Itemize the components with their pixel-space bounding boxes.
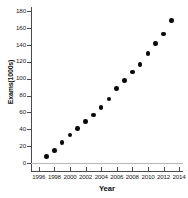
y-tick-label: 180 <box>0 8 26 15</box>
data-point <box>52 148 57 153</box>
plot-area <box>0 0 188 198</box>
y-tick-label-text: 180 <box>2 8 26 14</box>
y-tick <box>27 62 31 63</box>
data-point <box>146 51 151 56</box>
y-tick-label: 160 <box>0 25 26 32</box>
y-tick-label-text: 140 <box>2 42 26 48</box>
y-axis-line <box>31 7 32 171</box>
data-point <box>75 126 80 131</box>
data-point <box>169 18 174 23</box>
y-tick-label-text: 160 <box>2 25 26 31</box>
data-point <box>83 119 88 124</box>
data-point <box>44 154 49 159</box>
y-tick <box>27 28 31 29</box>
y-tick <box>27 112 31 113</box>
data-point <box>161 32 166 37</box>
x-tick-label: 2014 <box>168 173 188 180</box>
x-tick <box>70 167 71 171</box>
y-tick-label-text: 60 <box>2 109 26 115</box>
x-tick <box>132 167 133 171</box>
y-tick <box>27 45 31 46</box>
scatter-chart: Exams(1000s) 020406080100120140160180 19… <box>0 0 188 198</box>
y-tick-label: 80 <box>0 92 26 99</box>
y-tick <box>27 129 31 130</box>
y-tick-label: 0 <box>0 160 26 167</box>
y-tick-label: 140 <box>0 42 26 49</box>
y-tick-label: 20 <box>0 143 26 150</box>
y-tick-label-text: 40 <box>2 126 26 132</box>
x-tick <box>101 167 102 171</box>
y-tick-label: 40 <box>0 126 26 133</box>
y-tick <box>27 11 31 12</box>
x-tick <box>86 167 87 171</box>
data-point <box>60 140 65 145</box>
data-point <box>138 62 143 67</box>
x-axis-line <box>31 171 183 172</box>
y-tick-label: 100 <box>0 75 26 82</box>
data-point <box>91 113 96 118</box>
data-point <box>122 78 127 83</box>
y-tick-label: 60 <box>0 109 26 116</box>
data-point <box>130 70 135 75</box>
y-tick <box>27 146 31 147</box>
x-axis-title: Year <box>31 184 183 193</box>
y-tick <box>27 163 31 164</box>
data-point <box>99 105 104 110</box>
data-point <box>114 86 119 91</box>
y-tick-label-text: 0 <box>2 160 26 166</box>
x-tick <box>148 167 149 171</box>
y-tick-label: 120 <box>0 58 26 65</box>
x-tick <box>54 167 55 171</box>
y-tick-label-text: 100 <box>2 75 26 81</box>
data-point <box>68 133 73 138</box>
x-tick <box>179 167 180 171</box>
x-tick <box>39 167 40 171</box>
x-tick <box>117 167 118 171</box>
zero-baseline <box>31 163 183 164</box>
y-tick-label-text: 20 <box>2 143 26 149</box>
y-tick <box>27 96 31 97</box>
y-tick-label-text: 80 <box>2 92 26 98</box>
y-tick <box>27 79 31 80</box>
y-tick-label-text: 120 <box>2 58 26 64</box>
data-point <box>107 97 112 102</box>
data-point <box>153 41 158 46</box>
x-tick <box>164 167 165 171</box>
